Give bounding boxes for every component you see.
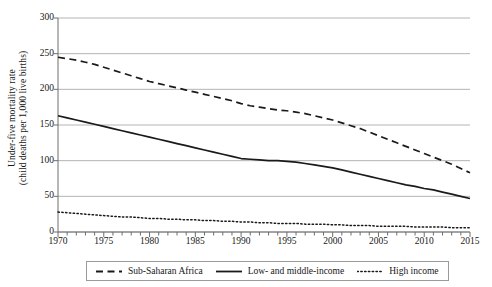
x-axis-tick-label: 1970: [41, 236, 75, 246]
series-line: [58, 212, 470, 228]
chart-legend: Sub-Saharan AfricaLow- and middle-income…: [86, 261, 449, 281]
x-axis-tick-label: 1975: [87, 236, 121, 246]
series-line: [58, 116, 470, 199]
legend-line-sample: [357, 268, 383, 275]
plot-area: [0, 0, 492, 250]
series-line: [58, 57, 470, 173]
gridlines: [58, 18, 470, 232]
legend-item: High income: [357, 266, 438, 276]
legend-item: Sub-Saharan Africa: [96, 266, 203, 276]
x-axis-tick-label: 2005: [361, 236, 395, 246]
legend-label: High income: [389, 266, 438, 276]
legend-label: Low- and middle-income: [248, 266, 345, 276]
legend-line-sample: [96, 268, 122, 275]
x-axis-tick-label: 1985: [178, 236, 212, 246]
x-axis-tick-label: 1980: [133, 236, 167, 246]
x-axis-tick-label: 1990: [224, 236, 258, 246]
chart-figure: Under-five mortality rate (child deaths …: [0, 0, 492, 287]
legend-item: Low- and middle-income: [216, 266, 345, 276]
x-axis-tick-label: 2010: [407, 236, 441, 246]
x-axis-tick-label: 2000: [316, 236, 350, 246]
legend-line-sample: [216, 268, 242, 275]
x-axis-tick-label: 2015: [453, 236, 487, 246]
data-series-layer: [58, 57, 470, 227]
legend-label: Sub-Saharan Africa: [128, 266, 203, 276]
x-axis-tick-label: 1995: [270, 236, 304, 246]
x-axis-tick-labels: 1970197519801985199019952000200520102015: [0, 236, 492, 250]
